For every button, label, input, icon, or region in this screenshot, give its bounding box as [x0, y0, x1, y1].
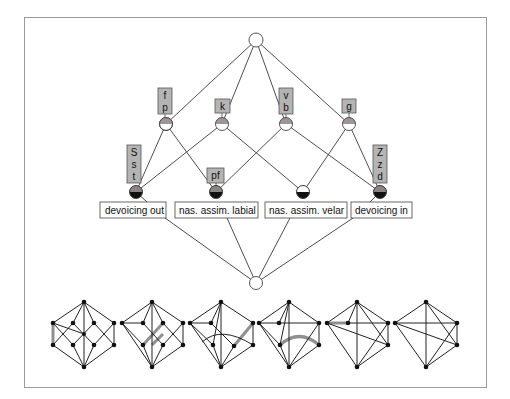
svg-text:z: z [378, 159, 383, 170]
lattice-edges [136, 40, 380, 283]
svg-text:d: d [377, 171, 383, 182]
svg-text:f: f [164, 90, 167, 101]
attr-node-k[interactable] [216, 118, 229, 131]
svg-text:nas. assim. labial: nas. assim. labial [179, 205, 256, 216]
bottom-node[interactable] [250, 277, 263, 290]
attr-node-g[interactable] [343, 118, 356, 131]
object-label-nas-labial: nas. assim. labial [175, 202, 258, 218]
svg-text:t: t [133, 171, 136, 182]
attr-label-pf: pf [207, 168, 224, 186]
small-graphs [51, 300, 460, 370]
svg-text:b: b [283, 102, 289, 113]
svg-text:p: p [162, 102, 168, 113]
object-label-devoicing-in: devoicing in [351, 202, 412, 218]
object-node-nas-labial[interactable] [210, 186, 223, 199]
svg-text:Z: Z [377, 147, 383, 158]
lattice-diagram: f p k v b g S s [0, 0, 510, 399]
svg-text:s: s [132, 159, 137, 170]
svg-text:devoicing in: devoicing in [355, 205, 408, 216]
object-label-devoicing-out: devoicing out [100, 202, 166, 218]
small-graph-6 [393, 300, 460, 370]
small-graph-1 [51, 300, 117, 370]
svg-text:nas. assim. velar: nas. assim. velar [269, 205, 345, 216]
svg-text:devoicing out: devoicing out [105, 205, 164, 216]
attr-node-fp[interactable] [160, 118, 173, 131]
attr-label-zzd: Z z d [373, 145, 387, 183]
top-node[interactable] [249, 33, 263, 47]
svg-text:S: S [131, 147, 138, 158]
small-graph-3 [188, 300, 256, 370]
svg-text:v: v [284, 90, 289, 101]
attr-label-vb: v b [279, 88, 293, 118]
object-node-devoicing-in[interactable] [374, 186, 387, 199]
attr-label-sst: S s t [127, 145, 141, 183]
object-label-nas-velar: nas. assim. velar [265, 202, 347, 218]
attr-label-k: k [215, 99, 230, 118]
svg-text:g: g [346, 101, 352, 112]
small-graph-2 [120, 300, 186, 370]
object-node-nas-velar[interactable] [297, 186, 310, 199]
object-node-devoicing-out[interactable] [130, 186, 143, 199]
svg-text:pf: pf [211, 170, 220, 181]
small-graph-5 [325, 300, 391, 370]
small-graph-4 [257, 300, 322, 370]
attr-node-vb[interactable] [280, 118, 293, 131]
attr-label-fp: f p [158, 88, 172, 118]
attr-label-g: g [342, 99, 356, 118]
